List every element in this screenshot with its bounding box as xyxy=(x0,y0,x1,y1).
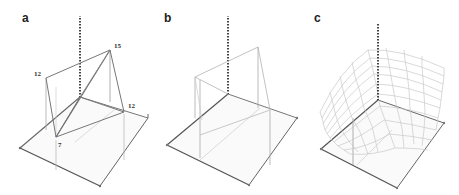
value-label-top-left: 12 xyxy=(34,70,42,78)
value-label-front: 7 xyxy=(58,141,62,149)
figure-canvas: 12 15 12 7 xyxy=(0,0,459,195)
panel-b-diagram xyxy=(166,16,298,186)
panel-a-diagram: 12 15 12 7 xyxy=(19,16,148,187)
value-label-top-right: 15 xyxy=(114,42,122,50)
panel-b-vertical-axis xyxy=(227,16,229,94)
panel-a-vertical-axis xyxy=(79,16,81,97)
value-label-right: 12 xyxy=(128,102,136,110)
panel-c-vertical-axis xyxy=(377,23,379,100)
panel-b-base-plate xyxy=(167,94,297,185)
panel-c-diagram xyxy=(320,23,445,189)
panel-a-base-plate xyxy=(20,97,148,186)
